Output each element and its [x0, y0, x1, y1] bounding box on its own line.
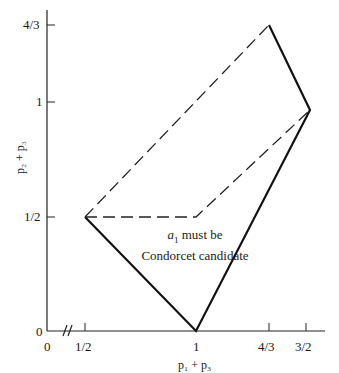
dashed-inner-line — [85, 110, 310, 217]
y-tick-label-43: 4/3 — [23, 18, 40, 31]
y-tick-label-half: 1/2 — [24, 210, 41, 223]
x-tick-label-1: 1 — [193, 340, 200, 353]
y-tick-label-0: 0 — [36, 325, 43, 338]
region-annotation: a1 must be Condorcet candidate — [120, 227, 270, 264]
y-axis-label: p₂ + p₃ — [13, 133, 28, 183]
dashed-upper-line — [85, 25, 269, 217]
chart-canvas — [0, 0, 339, 373]
annotation-line2-text: Condorcet candidate — [120, 248, 270, 264]
x-tick-label-32: 3/2 — [295, 340, 312, 353]
x-axis-label: p₁ + p₃ — [178, 359, 211, 372]
x-tick-label-half: 1/2 — [75, 340, 92, 353]
x-tick-label-0: 0 — [44, 340, 51, 353]
annotation-line1-text: must be — [178, 227, 222, 242]
solid-boundary-line — [85, 25, 310, 331]
x-tick-label-43: 4/3 — [258, 340, 275, 353]
y-tick-label-1: 1 — [36, 95, 43, 108]
